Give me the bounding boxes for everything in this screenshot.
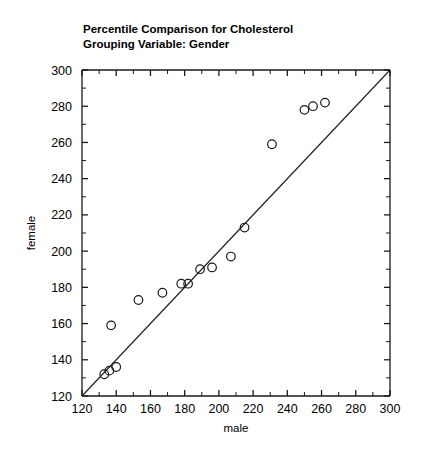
x-tick-label: 300: [380, 402, 401, 416]
chart-title-group: Percentile Comparison for Cholesterol Gr…: [83, 23, 293, 50]
data-points-group: [100, 98, 329, 378]
data-point: [107, 321, 116, 330]
x-tick-label: 260: [311, 402, 332, 416]
x-tick-label: 200: [208, 402, 229, 416]
data-point: [227, 252, 236, 261]
x-tick-label: 180: [174, 402, 195, 416]
x-tick-label: 220: [243, 402, 264, 416]
reference-line: [82, 70, 390, 396]
chart-title: Percentile Comparison for Cholesterol: [83, 23, 293, 35]
y-tick-label: 200: [51, 245, 72, 259]
chart-subtitle: Grouping Variable: Gender: [83, 38, 230, 50]
data-point: [309, 102, 318, 111]
x-tick-label: 160: [140, 402, 161, 416]
y-tick-label: 300: [51, 64, 72, 78]
x-tick-label: 240: [277, 402, 298, 416]
data-point: [134, 296, 143, 305]
y-tick-label: 160: [51, 317, 72, 331]
x-tick-label: 140: [106, 402, 127, 416]
data-point: [321, 98, 330, 107]
data-point: [196, 265, 205, 274]
percentile-comparison-scatter-chart: Percentile Comparison for Cholesterol Gr…: [0, 0, 430, 466]
y-tick-label: 140: [51, 353, 72, 367]
x-axis-label: male: [224, 422, 249, 434]
axes-group: 1201401601802002202402602803001201401601…: [51, 64, 400, 417]
data-point: [158, 288, 167, 297]
x-tick-label: 120: [72, 402, 93, 416]
y-tick-label: 220: [51, 208, 72, 222]
data-point: [112, 363, 121, 372]
y-tick-label: 120: [51, 390, 72, 404]
y-axis-label: female: [25, 216, 37, 251]
y-tick-label: 240: [51, 172, 72, 186]
y-tick-label: 180: [51, 281, 72, 295]
data-point: [208, 263, 217, 272]
y-tick-label: 260: [51, 136, 72, 150]
data-point: [300, 106, 309, 115]
y-tick-label: 280: [51, 100, 72, 114]
x-tick-label: 280: [345, 402, 366, 416]
data-point: [268, 140, 277, 149]
